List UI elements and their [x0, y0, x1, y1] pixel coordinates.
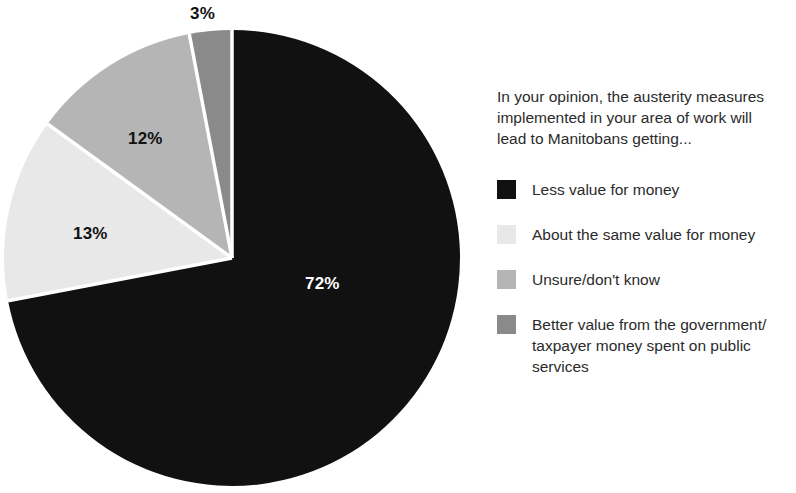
pie-slice-value-label: 13% — [73, 224, 108, 244]
chart-canvas: 72%13%12%3% In your opinion, the austeri… — [0, 0, 796, 493]
pie-slice-value-label: 12% — [128, 129, 163, 149]
legend-item-better-value[interactable]: Better value from the government/ taxpay… — [497, 314, 792, 377]
legend-item-about-same-value[interactable]: About the same value for money — [497, 224, 792, 245]
legend-item-label: Better value from the government/ taxpay… — [532, 314, 766, 377]
pie-chart-svg — [0, 0, 480, 493]
legend-item-less-value[interactable]: Less value for money — [497, 179, 792, 200]
legend-swatch-icon — [497, 225, 516, 244]
legend: In your opinion, the austerity measures … — [497, 86, 792, 377]
pie-chart: 72%13%12%3% — [0, 0, 480, 493]
legend-item-label: Less value for money — [532, 179, 679, 200]
legend-swatch-icon — [497, 270, 516, 289]
pie-slice-value-label: 72% — [305, 274, 340, 294]
legend-question-title: In your opinion, the austerity measures … — [497, 86, 792, 149]
legend-item-label: About the same value for money — [532, 224, 755, 245]
pie-slice-value-label: 3% — [190, 4, 215, 24]
legend-item-unsure[interactable]: Unsure/don't know — [497, 269, 792, 290]
legend-item-label: Unsure/don't know — [532, 269, 660, 290]
legend-swatch-icon — [497, 315, 516, 334]
legend-swatch-icon — [497, 180, 516, 199]
